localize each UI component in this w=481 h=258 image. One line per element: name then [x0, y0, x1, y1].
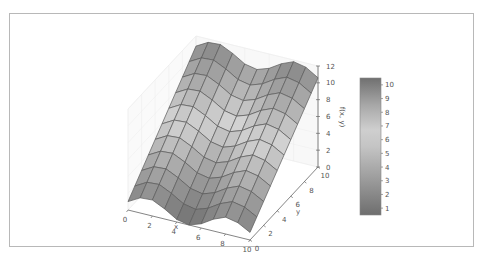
- y-tick-label: 8: [309, 187, 313, 195]
- z-tick-label: 4: [326, 130, 331, 138]
- x-tick-label: 8: [220, 240, 224, 248]
- surface-mesh: [128, 42, 318, 232]
- y-tick-label: 4: [282, 216, 287, 224]
- y-tick-label: 2: [268, 230, 272, 238]
- z-tick-label: 6: [326, 113, 331, 121]
- x-tick-label: 10: [243, 246, 252, 254]
- colorbar-tick-label: 2: [385, 191, 389, 199]
- x-tick-label: 6: [196, 234, 201, 242]
- colorbar-tick-label: 4: [385, 164, 390, 172]
- colorbar-tick-label: 1: [385, 205, 389, 213]
- x-axis-label: x: [174, 223, 178, 231]
- colorbar: 12345678910: [360, 78, 394, 215]
- x-tick-label: 2: [147, 222, 151, 230]
- y-tick-label: 0: [255, 245, 259, 253]
- y-axis-label: y: [296, 208, 300, 216]
- colorbar-tick-label: 10: [385, 81, 394, 89]
- colorbar-tick-label: 8: [385, 109, 389, 117]
- z-axis-label: f(x, y): [338, 107, 346, 128]
- colorbar-tick-label: 5: [385, 150, 389, 158]
- surface-plot: 02468100246810024681012 12345678910 x y …: [0, 0, 481, 258]
- colorbar-tick-label: 7: [385, 122, 389, 130]
- x-tick-label: 0: [123, 216, 127, 224]
- z-tick-label: 10: [326, 79, 335, 87]
- z-tick-label: 2: [326, 147, 330, 155]
- z-tick-label: 0: [326, 164, 330, 172]
- y-tick-label: 10: [321, 172, 330, 180]
- colorbar-tick-label: 6: [385, 136, 390, 144]
- colorbar-gradient: [360, 78, 381, 215]
- z-tick-label: 12: [326, 63, 335, 71]
- colorbar-tick-label: 3: [385, 177, 389, 185]
- colorbar-tick-label: 9: [385, 95, 389, 103]
- z-tick-label: 8: [326, 96, 330, 104]
